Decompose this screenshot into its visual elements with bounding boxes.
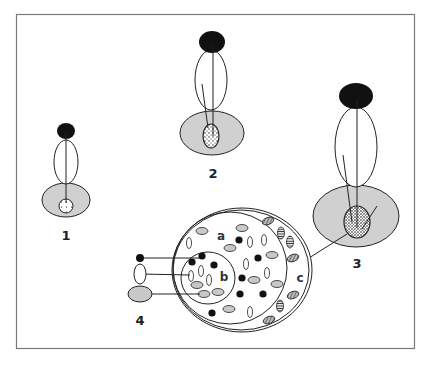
stage-4-grey-body bbox=[128, 286, 152, 302]
stage-1-label: 1 bbox=[61, 228, 70, 243]
stage-2-label: 2 bbox=[208, 166, 217, 181]
region-a-label: a bbox=[217, 229, 225, 243]
stage-4-granule bbox=[136, 254, 144, 262]
stage-4-label: 4 bbox=[135, 313, 144, 328]
stage-3-label: 3 bbox=[352, 256, 361, 271]
stage-4-vesicle bbox=[134, 264, 146, 284]
stage-2-body bbox=[195, 50, 227, 110]
stage-3: 3 bbox=[313, 83, 399, 271]
diagram-figure: 1 2 3 bbox=[0, 0, 429, 365]
stage-2-head bbox=[199, 31, 225, 53]
stage-2: 2 bbox=[180, 31, 244, 181]
region-c-label: c bbox=[296, 271, 303, 285]
region-b-label: b bbox=[220, 270, 229, 284]
stage-2-nucleus bbox=[203, 124, 219, 148]
stage-1: 1 bbox=[42, 123, 90, 243]
stage-3-head bbox=[339, 83, 373, 109]
stage-3-body bbox=[335, 107, 377, 187]
enlarged-section: a b c bbox=[172, 208, 312, 332]
